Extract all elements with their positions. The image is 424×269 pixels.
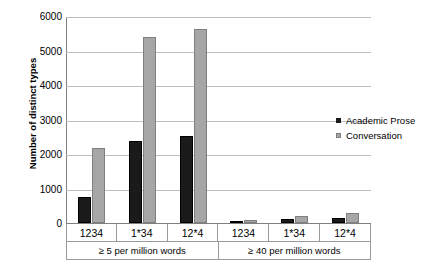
y-axis-tick-label: 5000 (30, 47, 62, 57)
legend-item: Academic Prose (336, 113, 424, 127)
legend-swatch-icon (336, 118, 341, 123)
y-axis-tick-label: 1000 (30, 185, 62, 195)
bar-academic-prose (230, 221, 243, 223)
category-label: 1*34 (269, 224, 320, 242)
bar-academic-prose (281, 219, 294, 223)
bar-conversation (92, 148, 105, 223)
bar-conversation (194, 29, 207, 223)
bar-chart: Number of distinct types 010002000300040… (0, 0, 424, 269)
bar-conversation (244, 220, 257, 223)
legend-item-label: Academic Prose (346, 115, 415, 126)
gridline (66, 52, 371, 53)
gridline (66, 155, 371, 156)
group-label-band: ≥ 5 per million words≥ 40 per million wo… (66, 242, 371, 260)
gridline (66, 190, 371, 191)
group-label: ≥ 40 per million words (219, 242, 372, 260)
plot-area (66, 17, 371, 224)
bar-conversation (346, 213, 359, 223)
category-label: 1*34 (117, 224, 168, 242)
bar-academic-prose (180, 136, 193, 223)
bar-conversation (143, 37, 156, 223)
bar-academic-prose (332, 218, 345, 223)
gridline (66, 17, 371, 18)
y-axis-tick-label: 0 (30, 219, 62, 229)
group-label: ≥ 5 per million words (66, 242, 219, 260)
category-label: 12*4 (168, 224, 219, 242)
bar-conversation (295, 216, 308, 223)
y-axis-tick-labels: 0100020003000400050006000 (26, 17, 62, 224)
gridline (66, 121, 371, 122)
bar-academic-prose (129, 141, 142, 223)
category-label: 1234 (66, 224, 117, 242)
legend-item: Conversation (336, 128, 424, 142)
category-label-band: 12341*3412*412341*3412*4 (66, 224, 371, 242)
gridline (66, 86, 371, 87)
bar-academic-prose (78, 197, 91, 223)
y-axis-tick-label: 6000 (30, 12, 62, 22)
legend-swatch-icon (336, 133, 341, 138)
legend-item-label: Conversation (346, 130, 402, 141)
category-label: 1234 (219, 224, 270, 242)
y-axis-tick-label: 2000 (30, 150, 62, 160)
y-axis-tick-label: 3000 (30, 116, 62, 126)
category-label: 12*4 (320, 224, 371, 242)
y-axis-tick-label: 4000 (30, 81, 62, 91)
chart-legend: Academic ProseConversation (336, 113, 424, 143)
